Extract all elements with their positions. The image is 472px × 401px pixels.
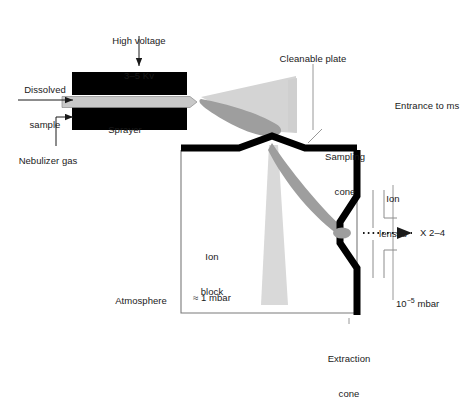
nebulizer-gas-label: Nebulizer gas xyxy=(19,155,78,167)
ion-block-label: Ion block xyxy=(201,228,223,320)
extraction-cone-label: Extraction cone xyxy=(328,330,371,401)
entrance-to-ms-label: Entrance to ms xyxy=(395,100,460,112)
extraction-aperture xyxy=(333,228,351,239)
sampling-cone-line1: Sampling xyxy=(325,151,365,163)
dissolved-sample-label: Dissolved sample xyxy=(24,61,66,153)
dissolved-sample-line2: sample xyxy=(24,119,66,131)
cleanable-plate-label: Cleanable plate xyxy=(280,53,347,65)
high-voltage-label: High voltage 3–5 Kv xyxy=(112,12,165,104)
source-pressure-label: ≈ 1 mbar xyxy=(193,292,231,304)
sampling-cone-label: Sampling cone xyxy=(325,128,365,220)
dissolved-sample-line1: Dissolved xyxy=(24,84,66,96)
high-voltage-line1: High voltage xyxy=(112,35,165,47)
analyser-pressure-unit: mbar xyxy=(415,298,440,309)
ion-block-line1: Ion xyxy=(201,251,223,263)
extraction-cone-line1: Extraction xyxy=(328,353,371,365)
ion-lenses-line2: lenses xyxy=(379,228,407,240)
sampling-cone-line2: cone xyxy=(325,186,365,198)
extraction-cone-line2: cone xyxy=(328,388,371,400)
high-voltage-line2: 3–5 Kv xyxy=(112,70,165,82)
cleanable-plate xyxy=(288,78,297,133)
multiplier-label: X 2–4 xyxy=(420,227,445,239)
atmosphere-label: Atmosphere xyxy=(115,295,167,307)
ion-lenses-label: Ion lenses xyxy=(379,170,407,262)
analyser-pressure-exponent: −5 xyxy=(407,297,415,304)
analyser-pressure-label: 10−5 mbar xyxy=(396,298,439,310)
sprayer-label: Sprayer xyxy=(108,124,142,136)
analyser-pressure-base: 10 xyxy=(396,298,407,309)
sampling-cone-leader xyxy=(308,129,322,143)
ion-lenses-line1: Ion xyxy=(379,193,407,205)
